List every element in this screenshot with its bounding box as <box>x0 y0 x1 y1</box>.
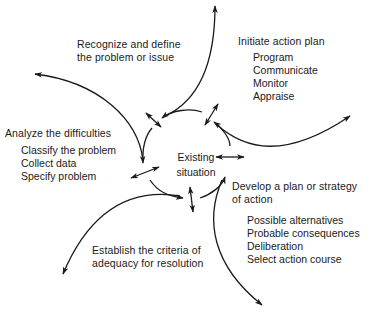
double-arrow-upper-left <box>146 113 161 127</box>
stage-develop: Develop a plan or strategy of action <box>232 180 357 205</box>
stage-establish: Establish the criteria of adequacy for r… <box>92 244 203 269</box>
list-item: Collect data <box>21 157 116 170</box>
stage-establish-title-1: Establish the criteria of <box>92 244 203 257</box>
stage-initiate-title: Initiate action plan <box>238 35 325 48</box>
stage-develop-items: Possible alternatives Probable consequen… <box>247 214 360 266</box>
list-item: Probable consequences <box>247 227 360 240</box>
center-line-1: Existing <box>168 150 224 165</box>
double-arrow-bottom <box>190 187 193 212</box>
outward-arrow-right <box>216 116 350 146</box>
stage-develop-title-2: of action <box>232 193 357 206</box>
list-item: Select action course <box>247 253 360 266</box>
center-line-2: situation <box>168 165 224 180</box>
stage-recognize-title-1: Recognize and define <box>77 38 181 51</box>
double-arrow-left <box>131 167 159 178</box>
spiral-arrow-right <box>214 122 230 146</box>
list-item: Specify problem <box>21 170 116 183</box>
stage-recognize: Recognize and define the problem or issu… <box>77 38 181 63</box>
stage-analyze-title: Analyze the difficulties <box>5 127 111 140</box>
spiral-arrow-left <box>143 128 152 163</box>
list-item: Classify the problem <box>21 144 116 157</box>
list-item: Appraise <box>253 90 318 103</box>
list-item: Possible alternatives <box>247 214 360 227</box>
list-item: Communicate <box>253 64 318 77</box>
list-item: Program <box>253 51 318 64</box>
list-item: Deliberation <box>247 240 360 253</box>
double-arrow-upper-right <box>205 104 218 125</box>
stage-initiate-items: Program Communicate Monitor Appraise <box>253 51 318 103</box>
stage-establish-title-2: adequacy for resolution <box>92 257 203 270</box>
list-item: Monitor <box>253 77 318 90</box>
stage-develop-title-1: Develop a plan or strategy <box>232 180 357 193</box>
problem-solving-cycle-diagram: Existing situation Recognize and define … <box>0 0 373 315</box>
stage-recognize-title-2: the problem or issue <box>77 51 181 64</box>
existing-situation-label: Existing situation <box>168 150 224 180</box>
stage-analyze-items: Classify the problem Collect data Specif… <box>21 144 116 183</box>
